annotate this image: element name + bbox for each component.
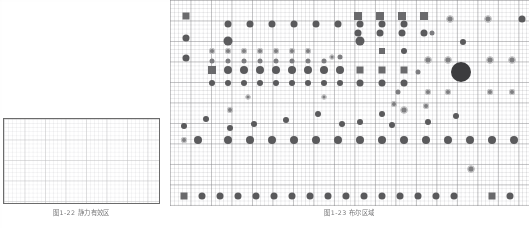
scatter-marker-ring [485, 16, 492, 23]
scatter-marker-dot [519, 16, 526, 23]
scatter-marker-dot [289, 193, 296, 200]
scatter-marker-ring [241, 48, 247, 54]
scatter-marker-dot [377, 30, 384, 37]
scatter-marker-small [338, 55, 343, 60]
left-graph-paper-grid [4, 119, 159, 203]
scatter-marker-dot [307, 193, 314, 200]
scatter-marker-sq [376, 12, 384, 20]
scatter-marker-dot [183, 35, 190, 42]
scatter-marker-ring [289, 48, 295, 54]
scatter-marker-ring [209, 48, 215, 54]
scatter-marker-dot [225, 21, 232, 28]
scatter-marker-dot [257, 80, 263, 86]
scatter-marker-sq [489, 193, 496, 200]
scatter-marker-dot [488, 136, 496, 144]
scatter-marker-ring [445, 57, 452, 64]
scatter-marker-dot [378, 136, 386, 144]
scatter-marker-dot [357, 21, 364, 28]
scatter-marker-dot [325, 193, 332, 200]
scatter-marker-dot [401, 80, 408, 87]
scatter-marker-sq [398, 12, 406, 20]
scatter-marker-ring [423, 103, 429, 109]
scatter-marker-small [322, 59, 327, 64]
scatter-marker-ring [330, 55, 335, 60]
scatter-marker-dot [225, 80, 231, 86]
scatter-marker-dot [183, 55, 190, 62]
scatter-marker-dot [399, 30, 406, 37]
scatter-marker-ring [487, 57, 494, 64]
scatter-marker-dot [379, 80, 386, 87]
figure-left: 图1-22 静力有效区 [0, 0, 170, 228]
scatter-marker-sq [357, 67, 364, 74]
scatter-marker-dot [356, 136, 364, 144]
scatter-marker-ring [305, 48, 311, 54]
scatter-marker-sq [379, 67, 386, 74]
scatter-marker-ring [246, 95, 251, 100]
scatter-marker-small [274, 59, 279, 64]
scatter-marker-dot [313, 21, 320, 28]
scatter-marker-dot [272, 66, 280, 74]
scatter-inline-label: n=2 [356, 41, 363, 45]
scatter-marker-big [451, 62, 471, 82]
scatter-marker-ring [425, 57, 432, 64]
scatter-marker-dot [217, 193, 224, 200]
scatter-marker-small [430, 31, 435, 36]
scatter-marker-dot [400, 136, 408, 144]
scatter-marker-dot [339, 121, 345, 127]
scatter-marker-dot [379, 21, 386, 28]
scatter-marker-ring [445, 89, 451, 95]
scatter-marker-dot [357, 119, 363, 125]
right-plot-area: n=1n=2 [170, 0, 529, 206]
scatter-marker-dot [291, 21, 298, 28]
scatter-marker-dot [453, 113, 459, 119]
scatter-marker-dot [357, 80, 364, 87]
scatter-marker-ring [391, 101, 397, 107]
scatter-marker-dot [401, 21, 408, 28]
scatter-marker-dot [379, 193, 386, 200]
scatter-marker-dot [181, 123, 187, 129]
scatter-marker-dot [241, 80, 247, 86]
scatter-marker-dot [271, 193, 278, 200]
scatter-marker-ring [509, 57, 516, 64]
scatter-marker-dot [312, 136, 320, 144]
figure-left-caption: 图1-22 静力有效区 [0, 208, 163, 217]
scatter-marker-dot [466, 136, 474, 144]
scatter-marker-dot [444, 136, 452, 144]
scatter-marker-sq [401, 67, 408, 74]
scatter-marker-dot [379, 111, 385, 117]
scatter-marker-dot [194, 136, 202, 144]
scatter-marker-ring [401, 107, 408, 114]
scatter-marker-ring [273, 48, 279, 54]
scanned-page: 图1-22 静力有效区 n=1n=2 图1-23 布尔区域 [0, 0, 529, 228]
scatter-marker-small [290, 59, 295, 64]
scatter-marker-sq [354, 12, 362, 20]
scatter-marker-dot [337, 80, 343, 86]
scatter-marker-dot [224, 66, 232, 74]
right-graph-paper-grid [170, 0, 529, 206]
scatter-marker-dot [451, 193, 458, 200]
scatter-marker-dot [315, 111, 321, 117]
scatter-marker-dot [421, 30, 428, 37]
scatter-marker-dot [336, 66, 344, 74]
scatter-marker-ring [322, 95, 327, 100]
scatter-marker-dot [460, 39, 466, 45]
scatter-marker-sq [379, 48, 385, 54]
scatter-marker-dot [251, 121, 257, 127]
scatter-marker-dot [415, 193, 422, 200]
scatter-marker-dot [224, 136, 232, 144]
scatter-marker-dot [321, 80, 327, 86]
scatter-marker-dot [199, 193, 206, 200]
scatter-marker-ring [257, 48, 263, 54]
scatter-marker-dot [397, 193, 404, 200]
scatter-marker-dot [305, 80, 311, 86]
scatter-marker-dot [253, 193, 260, 200]
scatter-marker-dot [227, 125, 233, 131]
scatter-marker-small [226, 59, 231, 64]
scatter-marker-dot [361, 193, 368, 200]
scatter-marker-ring [509, 89, 515, 95]
scatter-marker-dot [355, 30, 362, 37]
figure-right: n=1n=2 图1-23 布尔区域 [170, 0, 529, 228]
scatter-marker-small [242, 59, 247, 64]
scatter-marker-dot [235, 193, 242, 200]
scatter-marker-ring [227, 107, 233, 113]
